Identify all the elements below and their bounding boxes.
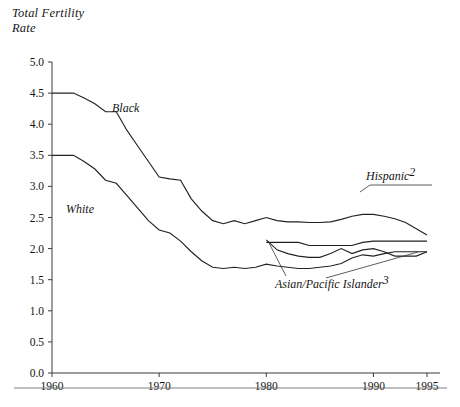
y-axis: 0.00.51.01.52.02.53.03.54.04.55.0	[30, 56, 52, 379]
y-tick-label: 5.0	[30, 56, 45, 68]
x-tick-label: 1960	[41, 380, 64, 392]
y-tick-label: 2.0	[30, 243, 45, 255]
x-axis: 19601970198019901995	[41, 373, 441, 392]
x-tick-label: 1980	[255, 380, 278, 392]
y-tick-label: 3.0	[30, 180, 45, 192]
x-tick-marks	[52, 373, 427, 377]
white-label: White	[66, 202, 95, 216]
x-tick-label: 1970	[148, 380, 171, 392]
x-tick-label: 1990	[362, 380, 385, 392]
asian-pacific-islander-label-superscript: 3	[382, 273, 389, 287]
hispanic-label-superscript: 2	[409, 165, 415, 179]
y-tick-marks	[48, 62, 52, 373]
hispanic-label: Hispanic2	[365, 165, 415, 183]
y-tick-label: 2.5	[30, 212, 45, 224]
black-label: Black	[112, 101, 140, 115]
y-tick-label: 1.0	[30, 305, 45, 317]
series-annotations: Black White Hispanic2 Asian/Pacific Isla…	[66, 101, 432, 291]
asian-pacific-islander-label-text: Asian/Pacific Islander	[274, 277, 383, 291]
series-line-black	[52, 93, 427, 235]
y-tick-label: 0.0	[30, 367, 45, 379]
y-tick-label: 3.5	[30, 149, 45, 161]
y-tick-label: 4.0	[30, 118, 45, 130]
series-line-hispanic	[266, 241, 427, 245]
line-chart: 0.00.51.01.52.02.53.03.54.04.55.0 196019…	[0, 0, 460, 407]
x-tick-labels: 19601970198019901995	[41, 380, 439, 392]
hispanic-leader-line	[360, 185, 432, 192]
y-tick-labels: 0.00.51.01.52.02.53.03.54.04.55.0	[30, 56, 45, 379]
y-tick-label: 4.5	[30, 87, 45, 99]
x-tick-label: 1995	[416, 380, 439, 392]
y-tick-label: 1.5	[30, 274, 45, 286]
hispanic-label-text: Hispanic	[365, 169, 410, 183]
y-tick-label: 0.5	[30, 336, 45, 348]
figure: Total FertilityRate 0.00.51.01.52.02.53.…	[0, 0, 460, 407]
asian-leader-line-left	[268, 241, 286, 276]
asian-pacific-islander-label: Asian/Pacific Islander3	[274, 273, 389, 291]
